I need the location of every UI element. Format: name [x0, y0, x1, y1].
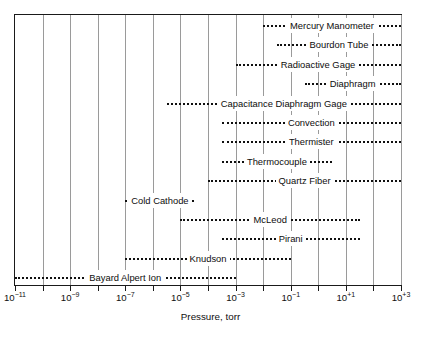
range-bar-label: Bayard Alpert Ion — [86, 270, 164, 285]
gauge-range-row: Knudson — [15, 252, 401, 266]
x-tick-label: 10−9 — [61, 292, 80, 303]
range-bar-label: Mercury Manometer — [287, 18, 377, 33]
gauge-range-row: Pirani — [15, 232, 401, 246]
x-tick-label: 10−3 — [226, 292, 245, 303]
gauge-range-row: Bayard Alpert Ion — [15, 271, 401, 285]
range-bar-label: Cold Cathode — [128, 193, 191, 208]
gauge-range-row: Cold Cathode — [15, 194, 401, 208]
gridline-decade-3 — [401, 15, 402, 285]
gauge-range-row: Thermister — [15, 135, 401, 149]
range-bar-label: Capacitance Diaphragm Gage — [218, 96, 350, 111]
range-bar-label: Thermocouple — [244, 154, 310, 169]
gauge-range-row: Convection — [15, 116, 401, 130]
x-tick — [208, 286, 209, 291]
x-tick — [263, 286, 264, 291]
x-tick-label: 10+3 — [392, 292, 411, 303]
x-tick-label: 10−7 — [116, 292, 135, 303]
range-bar-label: Diaphragm — [327, 76, 379, 91]
chart-figure: Mercury ManometerBourdon TubeRadioactive… — [0, 0, 421, 337]
gauge-range-row: McLeod — [15, 213, 401, 227]
range-bar-label: Convection — [285, 115, 338, 130]
range-bar-label: Pirani — [276, 231, 306, 246]
gauge-range-row: Bourdon Tube — [15, 38, 401, 52]
x-tick-label: 10+1 — [337, 292, 356, 303]
range-bar-label: Thermister — [286, 134, 337, 149]
x-tick — [98, 286, 99, 291]
range-bar-label: Knudson — [187, 251, 230, 266]
x-tick — [318, 286, 319, 291]
x-tick-label: 10−11 — [4, 292, 26, 303]
range-bar-label: Quartz Fiber — [276, 173, 334, 188]
x-tick-label: 10−5 — [171, 292, 190, 303]
gauge-range-row: Thermocouple — [15, 155, 401, 169]
range-bar-label: Bourdon Tube — [306, 37, 371, 52]
x-tick-label: 10−1 — [281, 292, 300, 303]
range-bar-label: Radioactive Gage — [278, 57, 359, 72]
plot-area: Mercury ManometerBourdon TubeRadioactive… — [14, 14, 402, 286]
x-tick — [373, 286, 374, 291]
gauge-range-row: Radioactive Gage — [15, 58, 401, 72]
x-tick — [153, 286, 154, 291]
gauge-range-row: Diaphragm — [15, 77, 401, 91]
gauge-range-row: Mercury Manometer — [15, 19, 401, 33]
gauge-range-row: Quartz Fiber — [15, 174, 401, 188]
range-bar-label: McLeod — [251, 212, 290, 227]
gauge-range-row: Capacitance Diaphragm Gage — [15, 97, 401, 111]
x-tick — [43, 286, 44, 291]
x-axis-title: Pressure, torr — [0, 311, 421, 322]
